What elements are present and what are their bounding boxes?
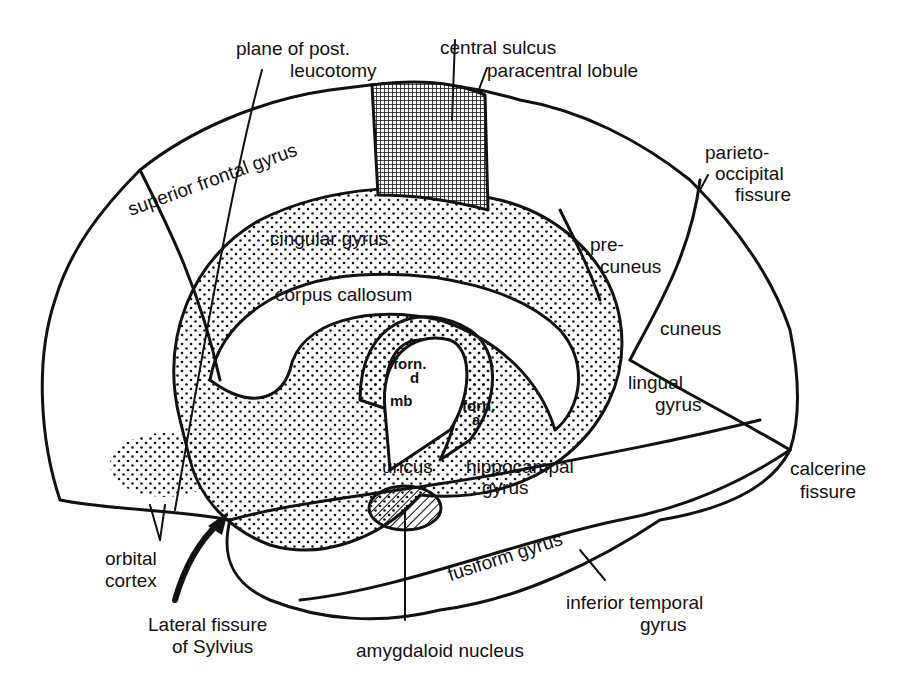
label-orbital: orbital [105,548,157,569]
label-of-sylvius: of Sylvius [172,636,253,657]
label-lingual: lingual [628,372,683,393]
label-lingual-gyrus: gyrus [655,394,701,415]
label-calcerine: calcerine [790,458,866,479]
label-pre: pre- [590,234,624,255]
label-paracentral-lobule: paracentral lobule [487,60,638,81]
brain-diagram: plane of post. leucotomy central sulcus … [0,0,909,691]
label-cuneus: cuneus [660,318,721,339]
label-precuneus: cuneus [600,256,661,277]
label-cortex: cortex [105,570,157,591]
label-parieto: parieto- [705,142,769,163]
label-amygdaloid-nucleus: amygdaloid nucleus [356,640,524,661]
label-uncus: uncus [382,456,433,477]
label-leucotomy: leucotomy [290,60,377,81]
label-mb: mb [390,393,413,408]
label-central-sulcus: central sulcus [440,37,556,58]
label-corpus-callosum: corpus callosum [275,284,412,305]
label-calcerine-fissure: fissure [800,481,856,502]
label-fornix-a-letter: a [472,412,480,427]
label-inferior-temporal-gyrus: gyrus [640,614,686,635]
label-lateral-fissure: Lateral fissure [148,614,267,635]
label-cingular-gyrus: cingular gyrus [270,228,388,249]
label-occipital-fissure: fissure [735,184,791,205]
label-plane-of-post: plane of post. [236,38,350,59]
label-fornix-d-letter: d [410,370,419,385]
label-inferior-temporal: inferior temporal [566,592,703,613]
label-hippocampal-gyrus: gyrus [482,477,528,498]
label-occipital: occipital [715,163,784,184]
label-hippocampal: hippocampal [466,456,574,477]
